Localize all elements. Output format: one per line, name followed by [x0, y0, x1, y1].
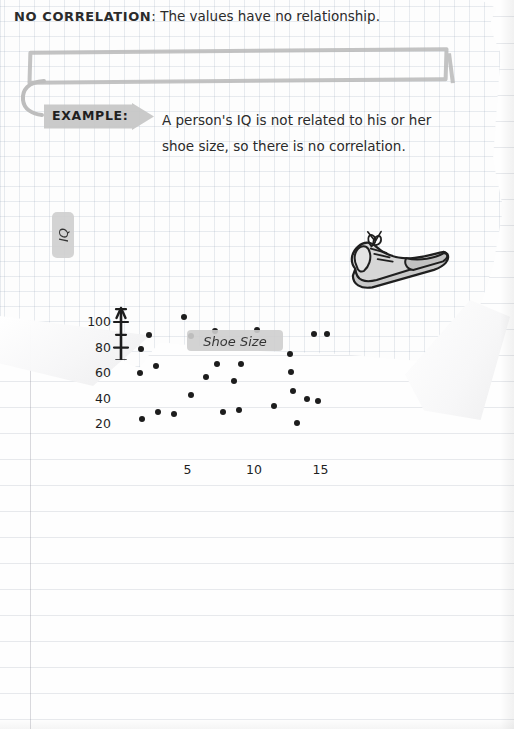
scatter-point [153, 363, 159, 369]
definition-banner [28, 49, 448, 83]
y-axis-label: IQ [56, 228, 71, 242]
page-edge-shadow-bottom [0, 719, 514, 729]
x-tick-label: 5 [174, 462, 202, 477]
scatter-point [155, 409, 161, 415]
definition-keyword: NO CORRELATION [14, 9, 151, 24]
scatter-point [287, 351, 293, 357]
banner-outline [27, 47, 448, 85]
page-edge-shadow-right [500, 0, 514, 729]
scatter-point [214, 361, 220, 367]
definition-separator: : [151, 8, 156, 24]
example-tag: EXAMPLE: [44, 103, 154, 130]
notebook-page: NO CORRELATION: The values have no relat… [0, 0, 514, 729]
scatter-point [294, 420, 300, 426]
y-tick-label: 80 [73, 340, 111, 355]
x-tick-label: 15 [307, 462, 335, 477]
y-tick-label: 100 [73, 314, 111, 329]
scatter-point [138, 346, 144, 352]
x-axis-label-tag: Shoe Size [187, 330, 283, 351]
scatter-point [304, 396, 310, 402]
scatter-point [181, 314, 187, 320]
sneaker-shoe-icon [344, 222, 454, 294]
y-tick-label: 40 [73, 391, 111, 406]
scatter-point [137, 370, 143, 376]
example-tag-label: EXAMPLE: [52, 108, 129, 123]
definition-text: NO CORRELATION: The values have no relat… [14, 6, 380, 27]
definition-body: The values have no relationship. [160, 8, 380, 24]
example-line-1: A person's IQ is not related to his or h… [162, 107, 472, 133]
scatter-point [146, 332, 152, 338]
scatter-point [290, 388, 296, 394]
x-tick-label: 10 [240, 462, 268, 477]
y-tick-label: 60 [73, 365, 111, 380]
y-axis-label-tag: IQ [52, 212, 74, 258]
y-tick-label: 20 [73, 416, 111, 431]
scatter-point [324, 331, 330, 337]
x-axis-label: Shoe Size [203, 333, 266, 348]
scatter-point [311, 331, 317, 337]
scatter-point [238, 361, 244, 367]
scatter-point [231, 378, 237, 384]
